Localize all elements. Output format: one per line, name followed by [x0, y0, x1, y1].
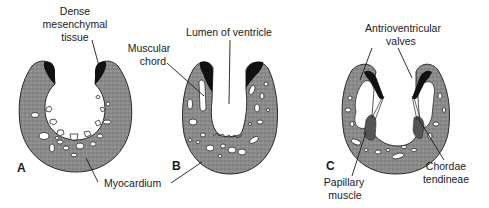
label-lumen: Lumen of ventricle [186, 26, 272, 38]
panel-b: B Lumen of ventricle Muscular chord [128, 26, 278, 183]
label-myocardium: Myocardium [104, 177, 161, 189]
myocardium-wall-b [182, 62, 277, 174]
label-dense-line1: Dense [60, 5, 91, 17]
label-papillary-line1: Papillary [324, 176, 365, 188]
panel-letter-c: C [326, 159, 335, 173]
leader-lumen [229, 40, 230, 104]
panel-letter-b: B [172, 159, 181, 173]
label-av-line2: valves [386, 35, 416, 47]
leader-av-right [398, 48, 412, 78]
label-muscular-line2: chord [140, 55, 166, 67]
label-muscular-line1: Muscular [128, 42, 171, 54]
label-dense-line3: tissue [61, 31, 89, 43]
label-chordae-line1: Chordae [426, 160, 466, 172]
papillary-muscle-right [413, 116, 424, 138]
panel-a: A Dense mesenchymal tissue [17, 5, 132, 182]
leader-dense-mesenchyme [92, 40, 100, 70]
ventricle-development-diagram: A Dense mesenchymal tissue Myocardium [0, 0, 489, 208]
label-av-line1: Antrioventricular [365, 22, 441, 34]
label-dense-line2: mesenchymal [43, 18, 108, 30]
label-chordae-line2: tendineae [423, 173, 469, 185]
panel-c: C Antrioventricular valves Papillary mus… [324, 22, 469, 201]
panel-letter-a: A [17, 161, 26, 175]
label-papillary-line2: muscle [328, 189, 361, 201]
